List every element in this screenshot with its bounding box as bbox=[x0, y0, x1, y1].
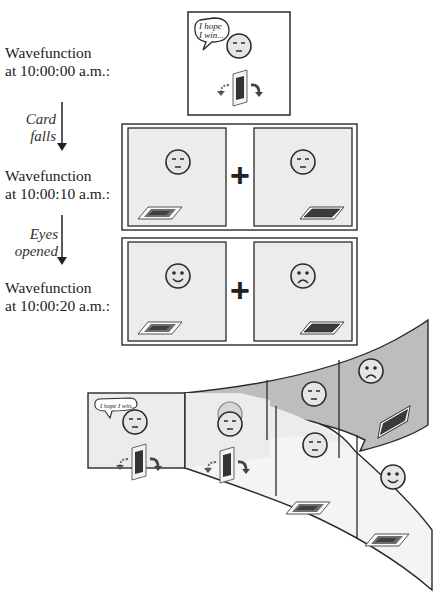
neutral-face-icon bbox=[166, 150, 190, 174]
happy-face-icon bbox=[381, 465, 405, 489]
neutral-face-icon bbox=[218, 412, 242, 436]
neutral-face-icon bbox=[291, 150, 315, 174]
superposition-panel-1: + bbox=[122, 124, 357, 230]
superposition-panel-2: + bbox=[122, 238, 357, 345]
arrow-down-icon bbox=[57, 102, 67, 151]
speech-text: I hope I win... bbox=[99, 402, 136, 409]
happy-face-icon bbox=[166, 264, 190, 288]
neutral-face-icon bbox=[302, 382, 326, 406]
neutral-face-icon bbox=[227, 34, 251, 58]
neutral-face-icon bbox=[123, 410, 147, 434]
wavefunction-diagram: I hope I win... + + bbox=[0, 0, 437, 597]
sad-face-icon bbox=[291, 264, 315, 288]
neutral-face-icon bbox=[303, 433, 327, 457]
plus-operator: + bbox=[230, 156, 250, 194]
initial-state-panel: I hope I win... bbox=[188, 12, 290, 115]
branching-sheet: I hope I win... bbox=[88, 320, 432, 590]
sad-face-icon bbox=[359, 359, 383, 383]
arrow-down-icon bbox=[57, 215, 67, 265]
plus-operator: + bbox=[230, 271, 250, 309]
speech-text: I win... bbox=[198, 30, 224, 40]
